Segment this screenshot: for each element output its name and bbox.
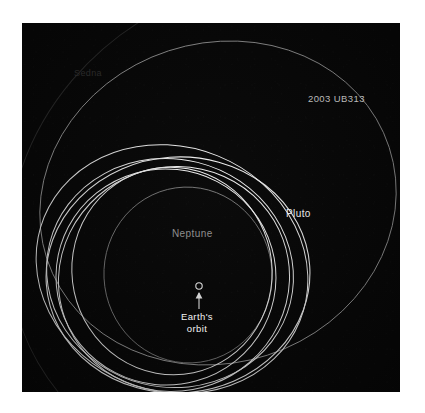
orbit-ellipse-kbo-6 bbox=[22, 104, 346, 392]
orbit-sedna bbox=[22, 23, 400, 392]
orbit-kuiper-cluster bbox=[22, 104, 346, 392]
orbit-neptune bbox=[93, 176, 284, 374]
earth-orbit-arrow-head-icon bbox=[196, 292, 203, 299]
orbit-ellipse-neptune bbox=[93, 176, 284, 374]
orbit-ellipse-sedna bbox=[22, 23, 400, 392]
earth-orbit-marker bbox=[196, 283, 203, 309]
orbit-ub313 bbox=[22, 23, 400, 392]
orbit-paths-svg bbox=[22, 23, 400, 392]
orbit-ellipse-ub313 bbox=[22, 23, 400, 392]
orbit-ellipse-kbo-3 bbox=[27, 134, 322, 392]
earth-orbit-circle-icon bbox=[196, 283, 202, 289]
orbit-plot-panel: Sedna 2003 UB313 Pluto Neptune Earth's o… bbox=[22, 23, 400, 392]
orbit-diagram-figure: Sedna 2003 UB313 Pluto Neptune Earth's o… bbox=[0, 0, 425, 413]
